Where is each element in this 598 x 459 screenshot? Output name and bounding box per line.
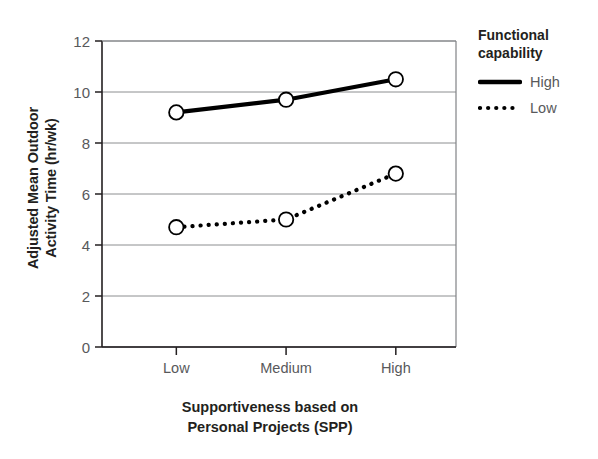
data-point-marker bbox=[169, 105, 183, 119]
legend-swatch-solid bbox=[478, 75, 522, 89]
legend-entry-high: High bbox=[478, 69, 594, 95]
legend-title: Functional capability bbox=[478, 27, 594, 62]
data-point-marker bbox=[389, 72, 403, 86]
y-axis-tick-label: 10 bbox=[73, 84, 90, 101]
y-axis-tick-label: 2 bbox=[82, 288, 90, 305]
x-axis-title-line-2: Personal Projects (SPP) bbox=[80, 418, 460, 438]
y-axis-tick-label: 4 bbox=[82, 237, 90, 254]
x-axis-tick-label-high: High bbox=[381, 360, 411, 376]
y-axis-ticks bbox=[95, 41, 102, 347]
legend-swatch-dotted bbox=[478, 101, 522, 115]
plot-area: 024681012 bbox=[60, 22, 470, 362]
data-series-group bbox=[169, 72, 403, 234]
x-axis-tick-label-low: Low bbox=[163, 360, 190, 376]
x-axis-ticks bbox=[176, 347, 395, 355]
legend-label: High bbox=[530, 74, 560, 90]
legend-entry-low: Low bbox=[478, 95, 594, 121]
gridlines bbox=[102, 41, 456, 347]
x-axis-title: Supportiveness based on Personal Project… bbox=[80, 398, 460, 437]
legend-title-line-1: Functional bbox=[478, 27, 594, 45]
y-axis-title-line-1: Adjusted Mean Outdoor bbox=[24, 107, 42, 269]
y-axis-tick-labels: 024681012 bbox=[73, 33, 90, 356]
x-axis-tick-label-medium: Medium bbox=[260, 360, 312, 376]
y-axis-title-line-2: Activity Time (hr/wk) bbox=[42, 107, 60, 269]
legend: Functional capability HighLow bbox=[478, 27, 594, 121]
legend-title-line-2: capability bbox=[478, 45, 594, 63]
legend-label: Low bbox=[530, 100, 557, 116]
data-point-marker bbox=[279, 212, 293, 226]
y-axis-tick-label: 0 bbox=[82, 339, 90, 356]
data-point-marker bbox=[389, 166, 403, 180]
y-axis-tick-label: 8 bbox=[82, 135, 90, 152]
data-point-marker bbox=[169, 220, 183, 234]
y-axis-tick-label: 6 bbox=[82, 186, 90, 203]
data-point-marker bbox=[279, 93, 293, 107]
x-axis-tick-labels: LowMediumHigh bbox=[106, 360, 461, 382]
y-axis-tick-label: 12 bbox=[73, 33, 90, 50]
x-axis-title-line-1: Supportiveness based on bbox=[80, 398, 460, 418]
legend-entries: HighLow bbox=[478, 69, 594, 121]
figure-container: Adjusted Mean Outdoor Activity Time (hr/… bbox=[0, 0, 598, 459]
